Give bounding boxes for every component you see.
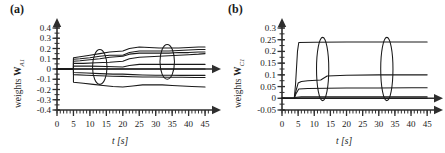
y-axis-tick-label: 0.1 [40, 54, 51, 64]
y-axis-tick-label: -0.1 [37, 74, 51, 84]
y-axis-tick-label: -0.4 [37, 105, 52, 115]
y-axis-tick-label: -0.05 [257, 105, 276, 115]
figure-two-panel-weights: (a) weights WA1 t [s] -0.4-0.3-0.2-0.100… [0, 0, 445, 153]
chart-series-line [282, 75, 427, 98]
x-axis-tick-label: 30 [151, 119, 161, 129]
x-axis-tick-label: 10 [85, 119, 95, 129]
x-axis-tick-label: 5 [71, 119, 76, 129]
y-axis-tick-label: 0 [272, 93, 277, 103]
x-axis-arrowhead [434, 106, 443, 114]
chart-panel-a: (a) weights WA1 t [s] -0.4-0.3-0.2-0.100… [0, 0, 222, 153]
highlight-ellipse-annotation [160, 44, 174, 79]
y-axis-tick-label: 0.2 [40, 44, 51, 54]
zero-line-arrowhead [212, 65, 221, 73]
x-axis-tick-label: 15 [326, 119, 336, 129]
x-axis-tick-label: 35 [168, 119, 178, 129]
x-axis-arrowhead [212, 106, 221, 114]
x-axis-tick-label: 40 [184, 119, 194, 129]
y-axis-tick-label: -0.3 [37, 95, 52, 105]
x-axis-tick-label: 25 [358, 119, 368, 129]
x-axis-tick-label: 25 [135, 119, 145, 129]
y-axis-tick-label: 0.2 [265, 46, 276, 56]
x-axis-tick-label: 45 [201, 119, 211, 129]
x-axis-tick-label: 20 [118, 119, 128, 129]
x-axis-tick-label: 5 [296, 119, 301, 129]
y-axis-arrowhead [53, 18, 61, 27]
chart-series-line [282, 42, 427, 98]
highlight-ellipse-annotation [317, 37, 329, 100]
x-axis-tick-label: 40 [407, 119, 417, 129]
chart-panel-b: (b) weights WC1 t [s] -0.0500.050.10.150… [223, 0, 445, 153]
x-axis-tick-label: 30 [374, 119, 384, 129]
y-axis-tick-label: 0.4 [40, 23, 52, 33]
highlight-ellipse-annotation [93, 50, 107, 85]
x-axis-tick-label: 45 [423, 119, 433, 129]
y-axis-tick-label: 0.3 [40, 33, 52, 43]
panel-b-plot: -0.0500.050.10.150.20.250.30510152025303… [223, 0, 445, 153]
chart-series-line [57, 69, 205, 87]
x-axis-tick-label: 10 [310, 119, 320, 129]
x-axis-tick-label: 20 [342, 119, 352, 129]
y-axis-tick-label: 0 [47, 64, 52, 74]
x-axis-tick-label: 0 [280, 119, 285, 129]
x-axis-tick-label: 15 [102, 119, 112, 129]
x-axis-tick-label: 0 [55, 119, 60, 129]
y-axis-tick-label: 0.05 [260, 82, 276, 92]
y-axis-tick-label: -0.2 [37, 85, 51, 95]
y-axis-tick-label: 0.1 [265, 70, 276, 80]
x-axis-tick-label: 35 [390, 119, 400, 129]
zero-line-arrowhead [434, 94, 443, 102]
y-axis-tick-label: 0.25 [260, 35, 276, 45]
y-axis-arrowhead [278, 18, 286, 27]
highlight-ellipse-annotation [381, 37, 393, 100]
y-axis-tick-label: 0.3 [265, 23, 277, 33]
panel-a-plot: -0.4-0.3-0.2-0.100.10.20.30.405101520253… [0, 0, 222, 153]
y-axis-tick-label: 0.15 [260, 58, 276, 68]
